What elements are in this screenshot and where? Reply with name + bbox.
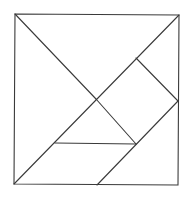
main-diagonal-tl-center xyxy=(15,14,96,99)
center-to-bottom-mid xyxy=(96,99,136,144)
tangram-piece-edges xyxy=(14,14,179,185)
small-triangle-base xyxy=(55,143,136,144)
anti-diagonal xyxy=(14,15,179,184)
tangram-diagram xyxy=(0,0,189,197)
square-piece-top-edge xyxy=(136,58,178,101)
